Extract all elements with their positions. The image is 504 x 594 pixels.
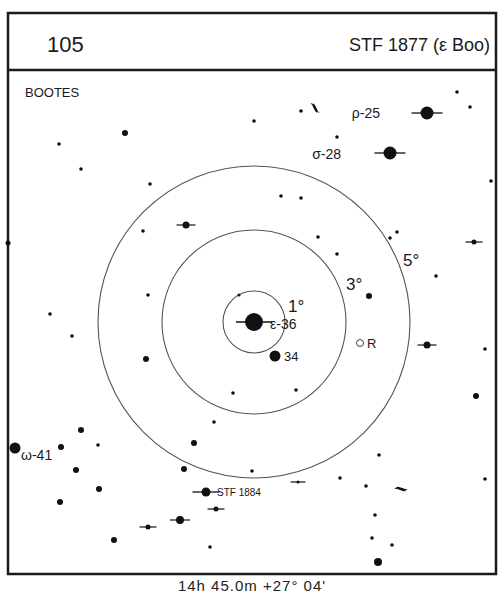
- star: [299, 109, 303, 113]
- ring-label: 5°: [403, 251, 419, 270]
- star: [191, 440, 197, 446]
- star-label: ε-36: [270, 316, 297, 332]
- star: [388, 236, 392, 240]
- star: [473, 393, 479, 399]
- star: [96, 443, 100, 447]
- star: [143, 356, 149, 362]
- star: [483, 477, 487, 481]
- constellation-label: BOOTES: [25, 85, 80, 100]
- star: [338, 476, 342, 480]
- star: [316, 235, 320, 239]
- star: [335, 135, 339, 139]
- star: [483, 347, 487, 351]
- star: [395, 230, 399, 234]
- star: [294, 388, 298, 392]
- star: [299, 196, 303, 200]
- star: [374, 558, 382, 566]
- star: [79, 167, 83, 171]
- object-title: STF 1877 (ε Boo): [349, 35, 490, 55]
- star: [58, 444, 64, 450]
- star: [181, 466, 187, 472]
- star: [231, 391, 235, 395]
- star: [252, 119, 256, 123]
- star: [122, 130, 128, 136]
- star: [6, 241, 11, 246]
- star-label: ω-41: [21, 447, 52, 463]
- star-label: 34: [284, 349, 298, 364]
- star: [373, 513, 377, 517]
- star: [70, 334, 74, 338]
- star: [57, 142, 61, 146]
- star: [141, 229, 145, 233]
- star-label: STF 1884: [217, 487, 261, 498]
- star: [335, 252, 339, 256]
- star: [370, 536, 374, 540]
- star: [455, 90, 459, 94]
- star: [390, 543, 394, 547]
- star-label: R: [367, 336, 376, 351]
- star: [208, 545, 212, 549]
- variable-star-icon: [357, 340, 364, 347]
- star: [489, 179, 493, 183]
- coordinates-footer: 14h 45.0m +27° 04': [0, 577, 504, 594]
- ring-label: 3°: [346, 275, 362, 294]
- star-label: ρ-25: [352, 105, 380, 121]
- star: [73, 467, 79, 473]
- star: [364, 484, 368, 488]
- star: [148, 182, 152, 186]
- star: [96, 486, 102, 492]
- star: [78, 427, 84, 433]
- ring-label: 1°: [288, 297, 304, 316]
- star: [366, 293, 372, 299]
- star: [434, 274, 438, 278]
- star: [377, 453, 381, 457]
- star: [212, 420, 216, 424]
- star: [250, 469, 254, 473]
- star-label: σ-28: [312, 146, 341, 162]
- star: [468, 105, 472, 109]
- star: [57, 499, 63, 505]
- star: [111, 537, 117, 543]
- star: [237, 293, 240, 296]
- chart-number: 105: [47, 32, 84, 57]
- star: [48, 312, 52, 316]
- star: [279, 194, 283, 198]
- star: [146, 293, 150, 297]
